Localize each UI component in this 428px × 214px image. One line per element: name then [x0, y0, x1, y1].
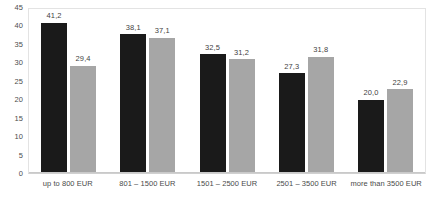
- bar-column[interactable]: 38,1: [120, 9, 146, 172]
- bar[interactable]: [358, 100, 384, 172]
- bar[interactable]: [70, 66, 96, 172]
- bar-value-label: 29,4: [76, 55, 91, 63]
- bar-value-label: 31,8: [313, 46, 328, 54]
- bar[interactable]: [149, 38, 175, 172]
- bar-column[interactable]: 20,0: [358, 9, 384, 172]
- bar-value-label: 38,1: [126, 24, 141, 32]
- bar-group: 41,229,4: [29, 9, 108, 172]
- y-axis-tick-label: 35: [14, 41, 23, 49]
- x-axis-category-label: 2501 – 3500 EUR: [267, 176, 347, 196]
- x-axis: up to 800 EUR801 – 1500 EUR1501 – 2500 E…: [28, 176, 426, 196]
- bar-value-label: 27,3: [284, 63, 299, 71]
- x-axis-category-label: 801 – 1500 EUR: [108, 176, 188, 196]
- bar-column[interactable]: 37,1: [149, 9, 175, 172]
- y-axis-tick-label: 5: [19, 152, 23, 160]
- bar-column[interactable]: 31,2: [229, 9, 255, 172]
- bar-value-label: 41,2: [47, 12, 62, 20]
- bar-column[interactable]: 27,3: [279, 9, 305, 172]
- bar[interactable]: [200, 54, 226, 172]
- y-axis: 454035302520151050: [0, 8, 26, 174]
- bar-chart: 454035302520151050 41,229,438,137,132,53…: [0, 0, 428, 214]
- y-axis-tick-label: 10: [14, 133, 23, 141]
- bar-value-label: 37,1: [155, 27, 170, 35]
- bar-column[interactable]: 41,2: [41, 9, 67, 172]
- bar[interactable]: [279, 73, 305, 172]
- bar-group: 20,022,9: [346, 9, 425, 172]
- bar[interactable]: [41, 23, 67, 172]
- bar-group: 27,331,8: [267, 9, 346, 172]
- y-axis-tick-label: 40: [14, 23, 23, 31]
- bar-column[interactable]: 31,8: [308, 9, 334, 172]
- y-axis-tick-label: 0: [19, 170, 23, 178]
- y-axis-tick-label: 15: [14, 115, 23, 123]
- y-axis-tick-label: 45: [14, 4, 23, 12]
- x-axis-category-label: up to 800 EUR: [28, 176, 108, 196]
- y-axis-tick-label: 25: [14, 78, 23, 86]
- x-axis-category-label: 1501 – 2500 EUR: [187, 176, 267, 196]
- plot-area: 41,229,438,137,132,531,227,331,820,022,9: [28, 8, 426, 174]
- y-axis-tick-label: 30: [14, 60, 23, 68]
- bar-value-label: 20,0: [363, 89, 378, 97]
- bar-group: 38,137,1: [108, 9, 187, 172]
- y-axis-tick-label: 20: [14, 96, 23, 104]
- axis-baseline: [29, 172, 425, 173]
- bar-groups: 41,229,438,137,132,531,227,331,820,022,9: [29, 9, 425, 172]
- bar-column[interactable]: 32,5: [200, 9, 226, 172]
- bar-value-label: 31,2: [234, 49, 249, 57]
- x-axis-category-label: more than 3500 EUR: [346, 176, 426, 196]
- bar-value-label: 22,9: [392, 79, 407, 87]
- bar[interactable]: [308, 57, 334, 172]
- bar-group: 32,531,2: [187, 9, 266, 172]
- bar-value-label: 32,5: [205, 44, 220, 52]
- bar-column[interactable]: 22,9: [387, 9, 413, 172]
- bar[interactable]: [387, 89, 413, 172]
- bar[interactable]: [120, 34, 146, 172]
- bar[interactable]: [229, 59, 255, 172]
- bar-column[interactable]: 29,4: [70, 9, 96, 172]
